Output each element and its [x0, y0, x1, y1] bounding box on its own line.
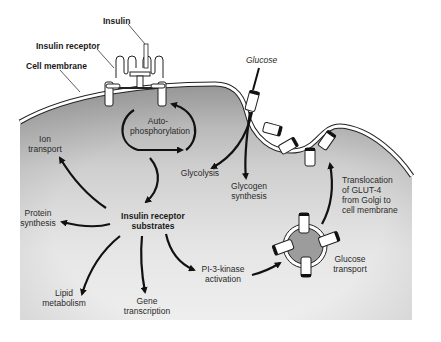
- insulin-label: Insulin: [103, 16, 130, 26]
- ion-transport-label-2: transport: [28, 144, 62, 154]
- protein-synthesis-label-1: Protein: [25, 208, 52, 218]
- irs-label-1: Insulin receptor: [121, 211, 185, 221]
- glycogen-synthesis-label-2: synthesis: [231, 191, 266, 201]
- irs-label-2: substrates: [132, 221, 175, 231]
- glycolysis-label: Glycolysis: [181, 168, 219, 178]
- pi3k-label-1: PI-3-kinase: [202, 264, 245, 274]
- insulin-leader-line: [128, 24, 145, 44]
- translocation-label-4: cell membrane: [342, 205, 398, 215]
- translocation-label-1: Translocation: [342, 175, 393, 185]
- glucose-label: Glucose: [246, 55, 277, 65]
- cell-membrane-label: Cell membrane: [26, 61, 87, 71]
- translocation-label-2: of GLUT-4: [342, 185, 381, 195]
- pi3k-label-2: activation: [205, 274, 241, 284]
- glycogen-synthesis-label-1: Glycogen: [231, 181, 267, 191]
- glucose-transporter: [245, 68, 260, 112]
- lipid-metabolism-label-1: Lipid: [55, 288, 73, 298]
- membrane-leader-line: [60, 70, 80, 92]
- receptor-leader-line: [97, 49, 114, 68]
- gene-transcription-label-1: Gene: [137, 296, 158, 306]
- glucose-transport-label-2: transport: [333, 264, 367, 274]
- insulin-signaling-diagram: Insulin Insulin receptor Cell membrane A…: [0, 0, 441, 342]
- insulin-receptor-label: Insulin receptor: [36, 41, 100, 51]
- insulin-molecule: [144, 44, 148, 68]
- gene-transcription-label-2: transcription: [124, 306, 171, 316]
- protein-synthesis-label-2: synthesis: [20, 218, 55, 228]
- glucose-transport-label-1: Glucose: [334, 254, 365, 264]
- autophosphorylation-label-2: phosphorylation: [130, 126, 190, 136]
- ion-transport-label-1: Ion: [39, 134, 51, 144]
- lipid-metabolism-label-2: metabolism: [42, 298, 85, 308]
- autophosphorylation-label-1: Auto-: [148, 116, 168, 126]
- translocation-label-3: from Golgi to: [342, 195, 391, 205]
